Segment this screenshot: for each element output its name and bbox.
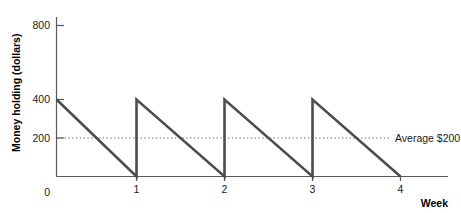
y-tick-label-400: 400 xyxy=(32,93,50,105)
x-axis-title: Week xyxy=(421,197,448,209)
chart-container: 800 400 200 0 1 2 3 4 Money holding (dol… xyxy=(0,0,461,213)
x-tick-label-4: 4 xyxy=(398,183,404,195)
y-tick-label-200: 200 xyxy=(32,132,50,144)
y-tick-label-800: 800 xyxy=(32,19,50,31)
x-tick-label-1: 1 xyxy=(134,183,140,195)
x-tick-label-3: 3 xyxy=(310,183,316,195)
money-holding-sawtooth-chart: 800 400 200 0 1 2 3 4 Money holding (dol… xyxy=(0,0,461,213)
y-tick-label-0: 0 xyxy=(44,186,50,198)
x-tick-label-2: 2 xyxy=(222,183,228,195)
average-annotation-label: Average $200 xyxy=(395,132,460,144)
y-axis-title: Money holding (dollars) xyxy=(10,34,22,152)
